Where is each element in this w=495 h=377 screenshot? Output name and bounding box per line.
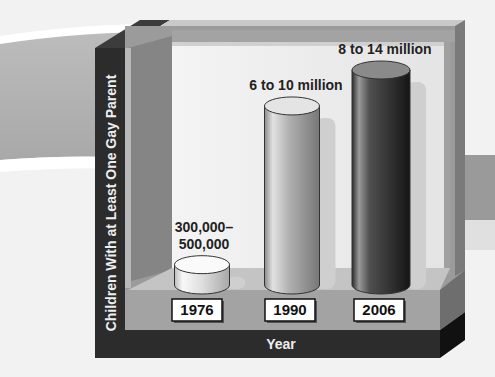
frame-left-trim bbox=[125, 48, 131, 288]
y-axis-label: Children With at Least One Gay Parent bbox=[103, 74, 119, 331]
x-tick-label-1976: 1976 bbox=[180, 301, 213, 318]
bar-top-2006 bbox=[352, 61, 410, 79]
x-tick-label-2006: 2006 bbox=[362, 301, 395, 318]
data-label-1976: 300,000– bbox=[175, 219, 234, 235]
x-axis-label: Year bbox=[266, 336, 296, 352]
bar-top-1976 bbox=[175, 256, 230, 274]
frame-right-side bbox=[455, 20, 465, 276]
bar-2006 bbox=[352, 70, 410, 294]
data-label-1990: 6 to 10 million bbox=[249, 77, 342, 93]
back-wall-right-trim bbox=[444, 42, 450, 274]
data-label-2006: 8 to 14 million bbox=[338, 41, 431, 57]
bar-1990 bbox=[265, 106, 320, 294]
data-label-1976: 500,000 bbox=[179, 236, 230, 252]
chart: 300,000–500,00019766 to 10 million19908 … bbox=[0, 0, 495, 377]
x-tick-label-1990: 1990 bbox=[273, 301, 306, 318]
frame-left-wall bbox=[128, 36, 172, 282]
bar-top-1990 bbox=[265, 97, 320, 115]
